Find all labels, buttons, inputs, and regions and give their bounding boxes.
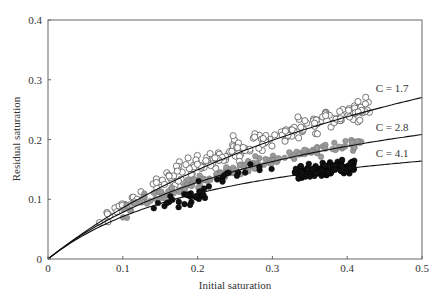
x-tick-label: 0.5 (415, 262, 429, 274)
data-point (296, 135, 302, 141)
data-point (203, 158, 209, 164)
data-point (306, 161, 312, 167)
data-point (252, 134, 258, 140)
data-point (220, 179, 226, 185)
x-axis-label: Initial saturation (199, 279, 272, 291)
data-point (237, 162, 243, 168)
x-tick-label: 0.3 (266, 262, 280, 274)
data-point (336, 144, 342, 150)
data-point (287, 150, 293, 156)
data-point (169, 185, 175, 191)
x-tick-label: 0 (45, 262, 51, 274)
data-point (302, 118, 308, 124)
data-point (314, 145, 320, 151)
data-point (296, 175, 302, 181)
y-tick-label: 0.2 (28, 134, 42, 146)
data-point (185, 177, 191, 183)
curve-label: C = 2.8 (376, 121, 409, 133)
data-point (182, 201, 188, 207)
data-point (260, 135, 266, 141)
data-point (295, 114, 301, 120)
data-point (242, 170, 248, 176)
data-point (269, 143, 275, 149)
curve-C-1.7 (48, 98, 422, 260)
data-point (269, 166, 275, 172)
data-point (234, 173, 240, 179)
y-axis-label: Residual saturation (10, 96, 22, 181)
data-point (323, 113, 329, 119)
data-point (348, 160, 354, 166)
y-tick-label: 0.1 (28, 193, 42, 205)
data-point (332, 140, 338, 146)
data-point (282, 128, 288, 134)
data-point (272, 132, 278, 138)
data-point (253, 154, 259, 160)
y-tick-label: 0.4 (28, 14, 42, 26)
data-point (362, 101, 368, 107)
data-point (298, 163, 304, 169)
data-point (176, 199, 182, 205)
data-point (183, 162, 189, 168)
data-point (153, 179, 159, 185)
data-point (314, 131, 320, 137)
data-point (214, 177, 220, 183)
data-point (224, 164, 230, 170)
data-point (185, 155, 191, 161)
data-point (282, 138, 288, 144)
data-point (293, 166, 299, 172)
data-point (355, 98, 361, 104)
data-point (355, 139, 361, 145)
y-tick-label: 0 (37, 253, 43, 265)
data-point (310, 166, 316, 172)
data-point (357, 117, 363, 123)
data-point (194, 161, 200, 167)
curve-label: C = 4.1 (376, 147, 409, 159)
data-point (158, 189, 164, 195)
data-point (343, 138, 349, 144)
data-point (174, 168, 180, 174)
data-point (307, 174, 313, 180)
data-point (339, 157, 345, 163)
data-point (230, 133, 236, 139)
data-point (176, 204, 182, 210)
data-points (96, 94, 372, 226)
x-tick-label: 0.4 (340, 262, 354, 274)
data-point (187, 202, 193, 208)
data-point (166, 173, 172, 179)
data-point (363, 94, 369, 100)
curve-label: C = 1.7 (376, 82, 409, 94)
data-point (298, 124, 304, 130)
data-point (337, 108, 343, 114)
data-point (302, 147, 308, 153)
data-point (212, 155, 218, 161)
y-tick-label: 0.3 (28, 74, 42, 86)
x-tick-label: 0.2 (191, 262, 205, 274)
x-tick-label: 0.1 (116, 262, 130, 274)
scatter-chart: C = 1.7C = 2.8C = 4.1 00.10.20.30.40.5 0… (0, 0, 443, 298)
data-point (346, 107, 352, 113)
data-point (325, 169, 331, 175)
